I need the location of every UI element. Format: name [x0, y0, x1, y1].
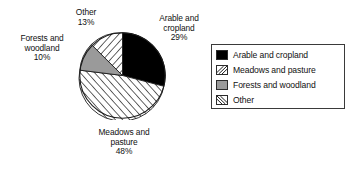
pie-chart-figure: Other 13% Arable and cropland 29% Forest… [0, 0, 360, 169]
pie-label-forests-and-woodland: Forests and woodland 10% [11, 34, 73, 63]
legend-label-forests-and-woodland: Forests and woodland [233, 80, 316, 90]
legend-item-forests-and-woodland: Forests and woodland [216, 78, 340, 92]
pie-label-meadows-value: 48% [76, 147, 172, 157]
legend-item-meadows-and-pasture: Meadows and pasture [216, 63, 340, 77]
pie-label-forests-line1: Forests and [20, 33, 63, 43]
legend-label-arable-and-cropland: Arable and cropland [233, 50, 308, 60]
forward-hatch-swatch-icon [216, 65, 228, 75]
legend-label-other: Other [233, 95, 254, 105]
legend: Arable and cropland Meadows and pasture … [211, 44, 345, 109]
legend-label-meadows-and-pasture: Meadows and pasture [233, 65, 316, 75]
pie-label-arable-line1: Arable and [159, 13, 199, 23]
pie-label-meadows-line1: Meadows and [98, 127, 149, 137]
pie-label-arable-value: 29% [148, 33, 210, 43]
pie-label-other-name: Other [76, 7, 96, 17]
backward-hatch-swatch-icon [216, 95, 228, 105]
pie-label-arable-and-cropland: Arable and cropland 29% [148, 14, 210, 43]
solid-gray-swatch-icon [216, 80, 228, 90]
pie-label-other-value: 13% [64, 18, 108, 28]
pie-svg [78, 31, 167, 120]
solid-black-swatch-icon [216, 50, 228, 60]
pie-label-meadows-and-pasture: Meadows and pasture 48% [76, 128, 172, 157]
pie-graphic [78, 31, 167, 120]
legend-item-other: Other [216, 93, 340, 107]
legend-item-arable-and-cropland: Arable and cropland [216, 48, 340, 62]
pie-label-other: Other 13% [64, 8, 108, 27]
pie-label-forests-value: 10% [11, 53, 73, 63]
